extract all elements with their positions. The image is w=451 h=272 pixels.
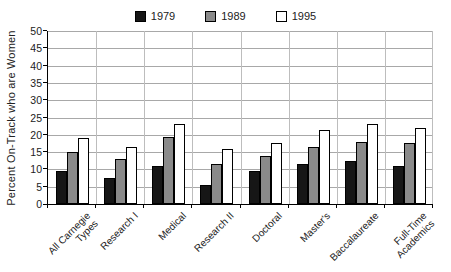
- x-category-label-research-ii: Research II: [192, 210, 236, 254]
- x-category-label-full-time-academics: Full-TimeAcademics: [386, 210, 436, 260]
- y-tick-label-5: 5: [2, 181, 42, 193]
- bar-medical-1995: [174, 124, 185, 204]
- y-tick-label-25: 25: [2, 112, 42, 124]
- bar-all-carnegie-types-1979: [56, 171, 67, 204]
- y-tick-mark-10: [43, 168, 47, 169]
- y-tick-mark-25: [43, 117, 47, 118]
- category-separator-4: [241, 31, 242, 204]
- legend-swatch-1989: [205, 11, 216, 22]
- x-category-label-research-i: Research I: [98, 210, 140, 252]
- bar-doctoral-1979: [249, 171, 260, 204]
- category-separator-3: [192, 31, 193, 204]
- y-tick-label-50: 50: [2, 25, 42, 37]
- category-separator-5: [289, 31, 290, 204]
- x-tick-mark-7: [384, 204, 385, 208]
- category-separator-2: [144, 31, 145, 204]
- bar-research-ii-1979: [200, 185, 211, 204]
- y-tick-mark-45: [43, 47, 47, 48]
- y-tick-label-30: 30: [2, 94, 42, 106]
- bar-medical-1989: [163, 137, 174, 204]
- bar-master-s-1989: [308, 147, 319, 204]
- bar-full-time-academics-1979: [393, 166, 404, 204]
- y-tick-label-20: 20: [2, 129, 42, 141]
- x-tick-mark-5: [288, 204, 289, 208]
- bar-master-s-1995: [319, 130, 330, 204]
- y-tick-label-40: 40: [2, 60, 42, 72]
- plot-area: [48, 31, 433, 204]
- x-category-label-medical: Medical: [156, 210, 188, 242]
- category-separator-1: [96, 31, 97, 204]
- y-tick-mark-35: [43, 82, 47, 83]
- chart: 197919891995 Percent On-Track who are Wo…: [0, 0, 451, 272]
- category-separator-6: [337, 31, 338, 204]
- bar-research-ii-1995: [222, 149, 233, 204]
- legend-label-1979: 1979: [151, 10, 175, 22]
- bar-medical-1979: [152, 166, 163, 204]
- legend-label-1989: 1989: [221, 10, 245, 22]
- bar-all-carnegie-types-1989: [67, 152, 78, 204]
- x-tick-mark-8: [432, 204, 433, 208]
- x-category-label-baccalaureate: Baccalaureate: [328, 210, 381, 263]
- bar-baccalaureate-1979: [345, 161, 356, 204]
- bar-baccalaureate-1989: [356, 142, 367, 204]
- x-tick-mark-1: [95, 204, 96, 208]
- y-tick-mark-5: [43, 186, 47, 187]
- y-tick-mark-20: [43, 134, 47, 135]
- y-tick-mark-15: [43, 151, 47, 152]
- x-category-label-all-carnegie-types: All CarnegieTypes: [46, 210, 100, 264]
- y-tick-label-0: 0: [2, 198, 42, 210]
- bar-research-ii-1989: [211, 164, 222, 204]
- bar-doctoral-1989: [260, 156, 271, 204]
- x-tick-mark-4: [240, 204, 241, 208]
- legend-swatch-1995: [276, 11, 287, 22]
- category-separator-7: [385, 31, 386, 204]
- legend-item-1979: 1979: [135, 10, 175, 22]
- y-tick-mark-30: [43, 99, 47, 100]
- legend-item-1989: 1989: [205, 10, 245, 22]
- y-tick-label-35: 35: [2, 77, 42, 89]
- x-tick-mark-6: [336, 204, 337, 208]
- bar-research-i-1995: [126, 147, 137, 204]
- bar-research-i-1989: [115, 159, 126, 204]
- x-tick-mark-2: [143, 204, 144, 208]
- bar-master-s-1979: [297, 164, 308, 204]
- x-category-label-master-s: Master's: [298, 210, 332, 244]
- legend: 197919891995: [0, 8, 451, 24]
- bar-doctoral-1995: [271, 143, 282, 204]
- x-tick-mark-0: [47, 204, 48, 208]
- x-tick-mark-3: [191, 204, 192, 208]
- legend-label-1995: 1995: [292, 10, 316, 22]
- y-tick-label-45: 45: [2, 42, 42, 54]
- x-category-label-doctoral: Doctoral: [250, 210, 284, 244]
- bar-full-time-academics-1995: [415, 128, 426, 204]
- bar-full-time-academics-1989: [404, 143, 415, 204]
- y-tick-mark-40: [43, 65, 47, 66]
- bar-all-carnegie-types-1995: [78, 138, 89, 204]
- y-tick-mark-50: [43, 30, 47, 31]
- category-separator-8: [432, 31, 433, 204]
- bar-baccalaureate-1995: [367, 124, 378, 204]
- y-tick-label-15: 15: [2, 146, 42, 158]
- y-tick-label-10: 10: [2, 163, 42, 175]
- legend-swatch-1979: [135, 11, 146, 22]
- bar-research-i-1979: [104, 178, 115, 204]
- legend-item-1995: 1995: [276, 10, 316, 22]
